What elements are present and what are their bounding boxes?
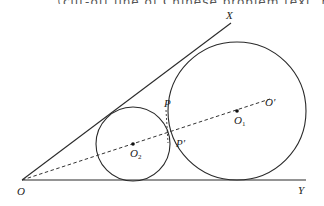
label-P: P (164, 98, 171, 109)
label-O: O (17, 186, 25, 197)
dashed-line-OO-prime (22, 99, 270, 180)
label-X: X (226, 10, 233, 21)
center-dot-O2 (131, 142, 135, 146)
center-dot-O1 (235, 109, 239, 113)
label-O1: O1 (234, 115, 245, 128)
label-P-prime: P′ (176, 138, 185, 149)
label-Y: Y (298, 185, 304, 196)
label-O2: O2 (130, 148, 141, 161)
label-O-prime: O′ (265, 97, 275, 108)
ray-OX (22, 23, 231, 180)
